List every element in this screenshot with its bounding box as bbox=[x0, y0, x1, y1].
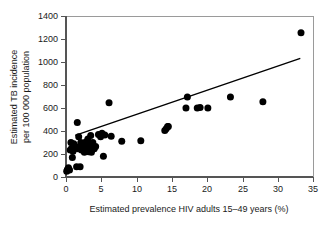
y-tick-label-0: 0 bbox=[53, 172, 58, 182]
y-tick-label-400: 400 bbox=[43, 126, 58, 136]
data-point bbox=[227, 94, 234, 101]
chart-figure: 0 200 400 600 800 1000 1200 1400 0 5 10 … bbox=[0, 0, 335, 225]
y-tick-label-1200: 1200 bbox=[38, 34, 58, 44]
x-tick-label-35: 35 bbox=[308, 184, 318, 194]
data-point bbox=[74, 119, 81, 126]
data-point bbox=[184, 94, 191, 101]
x-tick-label-10: 10 bbox=[132, 184, 142, 194]
data-point bbox=[69, 154, 76, 161]
y-axis-tick-labels: 0 200 400 600 800 1000 1200 1400 bbox=[38, 11, 58, 182]
data-point bbox=[204, 105, 211, 112]
data-point bbox=[100, 153, 107, 160]
x-axis-ticks bbox=[66, 177, 313, 182]
data-point bbox=[137, 137, 144, 144]
data-point bbox=[165, 123, 172, 130]
x-tick-label-15: 15 bbox=[167, 184, 177, 194]
y-tick-label-1400: 1400 bbox=[38, 11, 58, 21]
data-point bbox=[66, 167, 73, 174]
data-point bbox=[108, 133, 115, 140]
data-point bbox=[259, 98, 266, 105]
x-tick-label-0: 0 bbox=[63, 184, 68, 194]
data-point bbox=[106, 99, 113, 106]
y-tick-label-200: 200 bbox=[43, 149, 58, 159]
data-point bbox=[92, 143, 99, 150]
data-point bbox=[101, 132, 108, 139]
y-axis-ticks bbox=[61, 16, 66, 177]
y-tick-label-1000: 1000 bbox=[38, 57, 58, 67]
y-axis-title-line1: Estimated TB incidence bbox=[9, 50, 19, 144]
scatter-points-layer bbox=[63, 29, 304, 175]
x-axis-title: Estimated prevalence HIV adults 15–49 ye… bbox=[89, 204, 288, 214]
y-tick-label-600: 600 bbox=[43, 103, 58, 113]
x-axis-tick-labels: 0 5 10 15 20 25 30 35 bbox=[63, 184, 318, 194]
x-tick-label-5: 5 bbox=[98, 184, 103, 194]
x-tick-label-25: 25 bbox=[238, 184, 248, 194]
y-tick-label-800: 800 bbox=[43, 80, 58, 90]
x-tick-label-20: 20 bbox=[202, 184, 212, 194]
scatter-plot-svg: 0 200 400 600 800 1000 1200 1400 0 5 10 … bbox=[0, 0, 335, 225]
y-axis-title-line2: per 100 000 population bbox=[21, 51, 31, 143]
data-point bbox=[87, 132, 94, 139]
data-point bbox=[77, 163, 84, 170]
data-point bbox=[118, 138, 125, 145]
data-point bbox=[182, 105, 189, 112]
x-tick-label-30: 30 bbox=[273, 184, 283, 194]
data-point bbox=[298, 29, 305, 36]
data-point bbox=[197, 104, 204, 111]
